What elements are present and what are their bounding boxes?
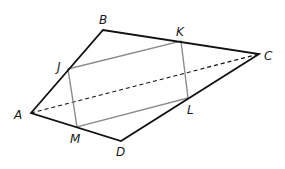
midpoint-label-k: K bbox=[176, 25, 185, 39]
geometry-diagram: A B C D J K L M bbox=[0, 0, 285, 169]
vertex-label-d: D bbox=[116, 145, 125, 159]
parallelogram-jklm bbox=[68, 41, 188, 127]
quadrilateral-abcd bbox=[31, 30, 259, 141]
vertex-label-c: C bbox=[264, 49, 273, 63]
midpoint-label-l: L bbox=[187, 103, 194, 117]
diagram-canvas: A B C D J K L M bbox=[0, 0, 285, 169]
diagonal-ac bbox=[31, 54, 259, 113]
vertex-label-a: A bbox=[13, 108, 22, 122]
midpoint-label-j: J bbox=[55, 60, 61, 74]
midpoint-label-m: M bbox=[70, 132, 81, 146]
vertex-label-b: B bbox=[99, 13, 107, 27]
